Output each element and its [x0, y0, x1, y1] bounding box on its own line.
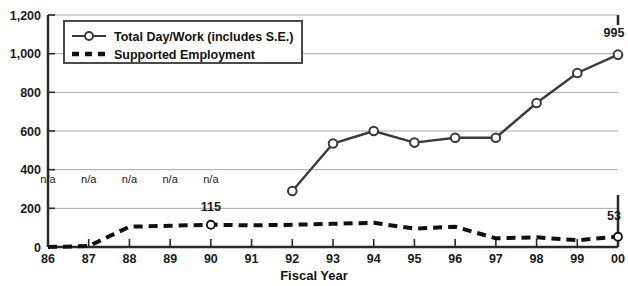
- x-axis-tick-label: 88: [122, 252, 136, 266]
- x-axis-tick-label: 93: [326, 252, 340, 266]
- y-axis-tick-label: 600: [20, 125, 41, 139]
- y-axis-tick-label: 0: [34, 241, 41, 255]
- x-axis-tick-label: 99: [570, 252, 584, 266]
- value-annotation: 53: [607, 209, 621, 223]
- x-axis-tick-label: 89: [163, 252, 177, 266]
- na-annotation: n/a: [203, 173, 219, 185]
- legend-circle-marker-icon: [85, 32, 93, 40]
- x-axis-tick-label: 00: [611, 252, 625, 266]
- x-axis-tick-label: 95: [407, 252, 421, 266]
- y-axis-tick-label: 200: [20, 202, 41, 216]
- x-axis-tick-label: 90: [204, 252, 218, 266]
- data-point-marker: [492, 133, 501, 142]
- data-point-marker: [369, 127, 378, 136]
- data-point-marker: [573, 69, 582, 78]
- series-total-day-work-markers: [288, 50, 622, 195]
- data-point-marker: [532, 99, 541, 108]
- y-axis-tick-label: 400: [20, 163, 41, 177]
- chart-legend: Total Day/Work (includes S.E.) Supported…: [64, 21, 302, 63]
- x-axis-title: Fiscal Year: [280, 268, 348, 283]
- data-point-marker: [410, 138, 419, 147]
- data-point-marker: [614, 50, 623, 59]
- na-annotation: n/a: [40, 173, 56, 185]
- value-annotation: 995: [604, 26, 625, 40]
- line-chart: 02004006008001,0001,200 8687888990919293…: [0, 0, 628, 286]
- x-axis-tick-label: 96: [448, 252, 462, 266]
- data-point-marker: [288, 187, 297, 196]
- x-axis-tick-label: 91: [245, 252, 259, 266]
- x-axis-tick-label: 86: [41, 252, 55, 266]
- chart-container: 02004006008001,0001,200 8687888990919293…: [0, 0, 628, 286]
- data-point-marker: [207, 221, 215, 229]
- na-annotation: n/a: [122, 173, 138, 185]
- data-point-marker: [329, 139, 338, 148]
- x-axis-tick-label: 87: [82, 252, 96, 266]
- na-annotation: n/a: [162, 173, 178, 185]
- x-axis-tick-label: 92: [285, 252, 299, 266]
- legend-label-total-day-work: Total Day/Work (includes S.E.): [114, 30, 293, 44]
- data-point-marker: [614, 233, 622, 241]
- x-axis-labels: 868788899091929394959697989900: [41, 252, 625, 266]
- value-annotation: 115: [201, 200, 221, 214]
- x-axis-tick-label: 94: [367, 252, 381, 266]
- y-axis-tick-label: 1,000: [10, 47, 41, 61]
- y-axis-tick-label: 800: [20, 86, 41, 100]
- series-total-day-work: [292, 55, 618, 191]
- y-axis-labels: 02004006008001,0001,200: [10, 9, 41, 255]
- legend-label-supported-employment: Supported Employment: [114, 48, 256, 62]
- x-axis-tick-label: 98: [530, 252, 544, 266]
- y-axis-tick-label: 1,200: [10, 9, 41, 23]
- data-point-marker: [451, 133, 460, 142]
- na-annotation: n/a: [81, 173, 97, 185]
- x-axis-tick-label: 97: [489, 252, 503, 266]
